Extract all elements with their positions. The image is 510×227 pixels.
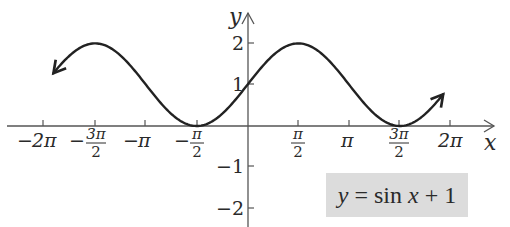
- x-tick-label-negpi-sign: −: [123, 129, 139, 151]
- x-tick-label-neg2pi: 2π: [31, 129, 57, 151]
- y-tick-label-2: 2: [232, 32, 244, 54]
- x-tick-label-pi2-den: 2: [293, 143, 303, 161]
- x-tick-label-neg3pi2-num: 3π: [86, 125, 107, 143]
- equation-label: y = sin x + 1: [326, 173, 468, 217]
- y-axis-label: y: [228, 4, 242, 29]
- x-tick-label-neg2pi-sign: −: [17, 129, 33, 151]
- x-tick-label-negpi: π: [137, 129, 151, 151]
- y-tick-label-1: 1: [232, 73, 244, 95]
- x-tick-label-pi2-num: π: [292, 125, 304, 143]
- equation-rest: + 1: [419, 182, 457, 209]
- x-tick-label-3pi2-num: 3π: [389, 125, 410, 143]
- x-tick-label-negpi2-num: π: [191, 125, 203, 143]
- y-tick-label-neg2: −2: [216, 197, 244, 219]
- x-tick-label-2pi: 2π: [437, 129, 463, 151]
- equation-eq: = sin: [348, 182, 408, 209]
- x-tick-label-negpi2-den: 2: [192, 143, 202, 161]
- y-tick-label-neg1: −1: [216, 155, 244, 177]
- equation-lhs: y: [338, 182, 349, 209]
- x-axis-label: x: [484, 130, 497, 155]
- x-tick-label-pi: π: [340, 129, 354, 151]
- equation-var: x: [408, 182, 419, 209]
- x-tick-label-negpi2-sign: −: [174, 129, 190, 151]
- x-tick-label-neg3pi2-den: 2: [91, 143, 101, 161]
- x-tick-label-3pi2-den: 2: [394, 143, 404, 161]
- x-tick-label-neg3pi2-sign: −: [69, 129, 85, 151]
